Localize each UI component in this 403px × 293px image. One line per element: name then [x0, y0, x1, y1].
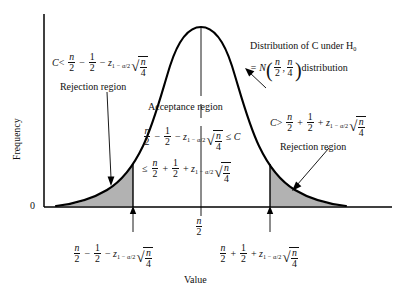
minus-op-c1: −	[154, 131, 160, 142]
acceptance-formula-line-1: n2 − 12 − z1 − α/2n4 ≤ C	[142, 126, 241, 152]
frac-n-2-c2: n2	[152, 158, 159, 179]
y-axis-label: Frequency	[12, 118, 22, 160]
left-critical-value-label: n2 − 12 − z1 − α/2n4	[72, 243, 153, 269]
C-symbol-c: C	[234, 131, 241, 142]
x-axis-label: Value	[184, 274, 207, 285]
distribution-text-1: Distribution of C under H	[250, 40, 353, 51]
sqrt-n-4-a: n4	[131, 56, 148, 78]
distribution-eq-n: = N	[250, 61, 266, 72]
z-subscript-c2: 1 − α/2	[195, 168, 213, 175]
plus-op-r1: +	[297, 117, 303, 128]
frac-n-2-r: n2	[286, 112, 293, 133]
frac-1-2-lt: 12	[94, 243, 101, 264]
plus-op-r2: +	[318, 117, 324, 128]
left-rejection-leader	[107, 92, 111, 178]
acceptance-formula-line-2: ≤ n2 + 12 + z1 − α/2n4	[142, 158, 241, 184]
distribution-suffix: distribution	[302, 61, 348, 72]
z-subscript-lt: 1 − α/2	[117, 253, 135, 260]
frac-n-2-a: n2	[68, 52, 75, 73]
left-rejection-shaded-area	[62, 164, 133, 206]
distribution-line-1: Distribution of C under H0	[250, 40, 357, 53]
frac-1-2-r: 12	[307, 112, 314, 133]
right-rejection-leader	[297, 148, 329, 185]
le-op-1: ≤	[226, 131, 232, 142]
plus-op-c1: +	[162, 163, 168, 174]
plus-op-rt2: +	[251, 248, 257, 259]
left-paren: (	[266, 63, 273, 79]
frac-n-2-lt: n2	[74, 243, 81, 264]
distribution-line-2: = N(n2,n4)distribution	[250, 57, 357, 79]
frac-1-2-c1: 12	[164, 126, 171, 147]
left-condition-C: C	[52, 57, 59, 68]
plus-op-c2: +	[183, 163, 189, 174]
figure-canvas: Frequency 0 Value C< n2 − 12 − z1 − α/2n…	[0, 0, 403, 293]
minus-op-lt2: −	[105, 248, 111, 259]
h0-subscript: 0	[353, 45, 356, 52]
frac-n-2-dist: n2	[274, 57, 281, 78]
minus-op-b: −	[100, 57, 106, 68]
sqrt-n-4-rt: n4	[282, 247, 299, 269]
z-subscript-rt: 1 − α/2	[263, 253, 281, 260]
frac-n-2-rt: n2	[220, 243, 227, 264]
sqrt-n-4-c2: n4	[214, 162, 231, 184]
acceptance-interval-formula: n2 − 12 − z1 − α/2n4 ≤ C ≤ n2 + 12 + z1 …	[142, 126, 241, 184]
frac-n-2-center: n2	[196, 216, 203, 237]
right-condition-C: C	[270, 117, 277, 128]
left-condition-operator: <	[59, 57, 65, 68]
z-subscript-c: 1 − α/2	[187, 136, 205, 143]
sqrt-n-4-lt: n4	[136, 247, 153, 269]
right-rejection-annotation: C> n2 + 12 + z1 − α/2n4 Rejection region	[270, 112, 366, 152]
right-paren: )	[295, 63, 302, 79]
sqrt-n-4-c: n4	[206, 130, 223, 152]
dist-comma: ,	[283, 61, 286, 72]
z-subscript-a: 1 − α/2	[112, 62, 130, 69]
minus-op-c2: −	[175, 131, 181, 142]
distribution-annotation: Distribution of C under H0 = N(n2,n4)dis…	[250, 40, 357, 79]
right-condition-operator: >	[277, 117, 283, 128]
right-rejection-label: Rejection region	[270, 141, 366, 152]
right-rejection-arrowhead	[292, 182, 301, 191]
origin-label: 0	[30, 200, 35, 211]
plus-op-rt1: +	[230, 248, 236, 259]
frac-1-2-c2: 12	[172, 158, 179, 179]
left-rejection-label: Rejection region	[52, 81, 148, 92]
frac-1-2-rt: 12	[240, 243, 247, 264]
sqrt-n-4-r: n4	[349, 116, 366, 138]
minus-op-a: −	[79, 57, 85, 68]
center-tick-label: n2	[194, 216, 204, 237]
frac-n-4-dist: n4	[287, 57, 294, 78]
right-rejection-shaded-area	[270, 164, 341, 206]
frac-1-2-a: 12	[89, 52, 96, 73]
minus-op-lt1: −	[84, 248, 90, 259]
acceptance-region-label: Acceptance region	[148, 101, 223, 112]
le-op-2: ≤	[142, 163, 148, 174]
z-subscript-r: 1 − α/2	[330, 122, 348, 129]
left-rejection-annotation: C< n2 − 12 − z1 − α/2n4 Rejection region	[52, 52, 148, 92]
frac-n-2-c1: n2	[144, 126, 151, 147]
right-critical-value-label: n2 + 12 + z1 − α/2n4	[218, 243, 299, 269]
